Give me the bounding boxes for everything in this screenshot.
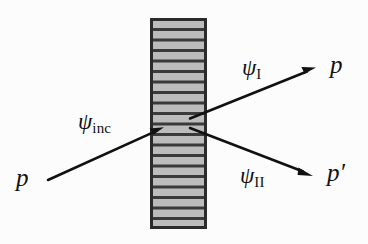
psi-glyph: ψ — [240, 163, 254, 188]
incident-wave-label: ψinc — [78, 110, 111, 136]
prime-glyph: ′ — [340, 159, 345, 186]
diagram-canvas — [0, 0, 368, 244]
momentum-p-glyph: p — [327, 159, 340, 186]
outgoing-momentum-two-label: p′ — [327, 160, 345, 185]
momentum-p-glyph: p — [16, 164, 29, 191]
psi-subscript: II — [254, 174, 264, 190]
incident-momentum-label: p — [16, 165, 29, 190]
arrowhead-icon — [298, 168, 313, 176]
barrier-slab — [151, 19, 206, 228]
channel-one-wave-label: ψI — [242, 56, 262, 82]
psi-glyph: ψ — [242, 55, 256, 80]
psi-glyph: ψ — [78, 109, 92, 134]
psi-subscript: inc — [92, 120, 111, 136]
scattering-diagram: p ψinc ψI ψII p p′ — [0, 0, 368, 244]
momentum-p-glyph: p — [330, 51, 343, 78]
channel-two-wave-label: ψII — [240, 164, 265, 190]
outgoing-momentum-one-label: p — [330, 52, 343, 77]
psi-subscript: I — [256, 66, 261, 82]
